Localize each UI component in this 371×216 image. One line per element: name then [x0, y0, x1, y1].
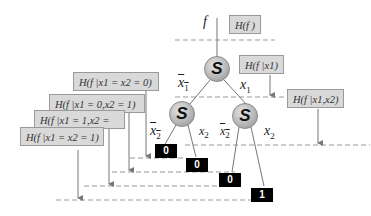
- edge-label-right-x2: x2: [264, 123, 275, 141]
- terminal-node-0-c: 0: [219, 173, 241, 187]
- bdd-entropy-diagram: f H(f ) H(f |x1) H(f |x1,x2) H(f |x1 = x…: [0, 0, 371, 216]
- entropy-box-h-f-x1-x2: H(f |x1,x2): [287, 89, 344, 108]
- terminal-node-0-b: 0: [186, 158, 208, 172]
- entropy-box-x1-x2-1: H(f |x1 = x2 = 1): [20, 127, 104, 146]
- edge-label-x1: x1: [240, 77, 251, 95]
- terminal-node-0-a: 0: [155, 144, 177, 158]
- decision-node-right: S: [232, 103, 258, 129]
- edge-label-not-x1: x1: [178, 75, 189, 93]
- function-label: f: [203, 14, 207, 30]
- entropy-box-x1-x2-0: H(f |x1 = x2 = 0): [73, 72, 159, 91]
- edge-label-left-not-x2: x2: [150, 123, 161, 141]
- terminal-node-1: 1: [251, 188, 273, 202]
- edge-label-right-not-x2: x2: [220, 124, 230, 140]
- entropy-box-h-f: H(f ): [229, 15, 261, 34]
- entropy-box-h-f-x1: H(f |x1): [239, 55, 284, 74]
- decision-node-root: S: [204, 56, 230, 82]
- decision-node-left: S: [169, 101, 195, 127]
- edge-label-left-x2: x2: [199, 124, 209, 140]
